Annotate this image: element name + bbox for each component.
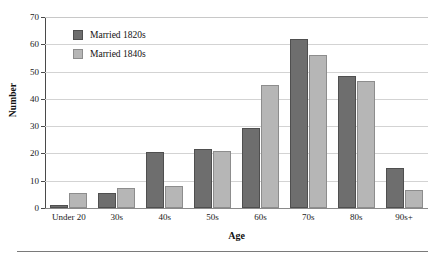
chart-legend: Married 1820s Married 1840s [73,25,146,63]
bar-group-50s [194,17,231,208]
x-tick-label-40s: 40s [158,212,171,222]
y-tick-label-10: 10 [30,176,39,186]
y-tick-label-0: 0 [35,203,40,213]
bar-50s-series-0[interactable] [194,149,212,208]
bar-80s-series-1[interactable] [357,81,375,208]
y-tick-label-60: 60 [30,39,39,49]
y-tick-mark-60 [41,44,45,45]
bar-chart-figure: Number 010203040506070Under 2030s40s50s6… [0,0,443,264]
legend-label-series-1: Married 1840s [90,49,146,59]
bar-70s-series-1[interactable] [309,55,327,208]
bar-40s-series-1[interactable] [165,186,183,208]
bar-group-90s- [386,17,423,208]
y-tick-label-30: 30 [30,121,39,131]
bar-80s-series-0[interactable] [338,76,356,208]
bar-30s-series-0[interactable] [98,193,116,208]
y-tick-mark-0 [41,208,45,209]
y-tick-mark-30 [41,126,45,127]
y-tick-label-40: 40 [30,94,39,104]
x-axis-title: Age [45,230,428,241]
bar-under-20-series-0[interactable] [50,205,68,208]
x-tick-label-30s: 30s [111,212,124,222]
legend-label-series-0: Married 1820s [90,30,146,40]
x-tick-label-90s-: 90s+ [395,212,413,222]
footer-divider [17,251,428,252]
legend-item-series-1: Married 1840s [73,44,146,63]
y-tick-mark-50 [41,72,45,73]
bar-group-70s [290,17,327,208]
x-tick-label-60s: 60s [254,212,267,222]
y-tick-mark-40 [41,99,45,100]
bar-30s-series-1[interactable] [117,188,135,208]
bar-60s-series-1[interactable] [261,85,279,208]
y-tick-label-50: 50 [30,67,39,77]
bar-50s-series-1[interactable] [213,151,231,208]
bar-70s-series-0[interactable] [290,39,308,208]
bar-90s--series-1[interactable] [405,190,423,208]
y-tick-mark-10 [41,181,45,182]
y-tick-label-20: 20 [30,148,39,158]
y-tick-mark-70 [41,17,45,18]
bar-40s-series-0[interactable] [146,152,164,208]
x-axis-line [45,208,428,209]
y-tick-label-70: 70 [30,12,39,22]
series-1-swatch-icon [73,49,83,59]
bar-group-60s [242,17,279,208]
bar-group-40s [146,17,183,208]
bar-90s--series-0[interactable] [386,168,404,208]
x-tick-label-50s: 50s [206,212,219,222]
y-tick-mark-20 [41,153,45,154]
x-tick-label-80s: 80s [350,212,363,222]
bar-group-80s [338,17,375,208]
bar-under-20-series-1[interactable] [69,193,87,208]
bar-60s-series-0[interactable] [242,128,260,208]
legend-item-series-0: Married 1820s [73,25,146,44]
x-tick-label-under-20: Under 20 [52,212,86,222]
series-0-swatch-icon [73,30,83,40]
y-axis-title: Number [8,60,18,140]
x-tick-label-70s: 70s [302,212,315,222]
